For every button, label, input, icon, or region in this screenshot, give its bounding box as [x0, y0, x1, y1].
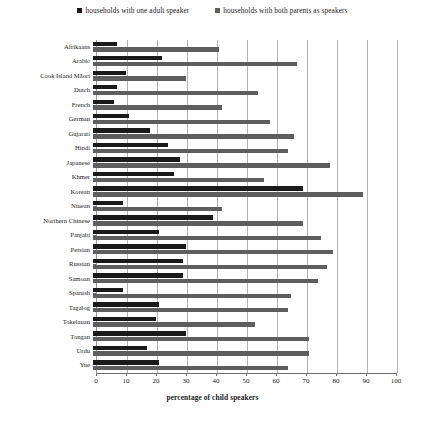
category-label-panjabi: Panjabi	[0, 232, 93, 239]
bar-group	[93, 112, 393, 126]
bar-group	[93, 214, 393, 228]
chart-row: Khmer	[0, 170, 396, 184]
category-label-khmer: Khmer	[0, 174, 93, 181]
bar-group	[93, 54, 393, 68]
legend-label-one-adult-speaker: households with one adult speaker	[85, 6, 189, 15]
bar-both-parents	[93, 192, 363, 196]
chart-row: Dutch	[0, 83, 396, 97]
bar-both-parents	[93, 366, 288, 370]
x-tick-label-100: 100	[391, 377, 402, 385]
bar-both-parents	[93, 105, 222, 109]
x-tick-label-20: 20	[153, 377, 160, 385]
bar-one-adult-speaker	[93, 42, 117, 46]
bar-both-parents	[93, 134, 294, 138]
bar-one-adult-speaker	[93, 186, 303, 190]
x-tick-mark-60	[276, 373, 277, 376]
chart-row: Samoan	[0, 272, 396, 286]
bar-one-adult-speaker	[93, 288, 123, 292]
x-tick-mark-10	[126, 373, 127, 376]
bar-one-adult-speaker	[93, 114, 129, 118]
chart-row: Persian	[0, 243, 396, 257]
x-tick-label-10: 10	[123, 377, 130, 385]
category-label-japanese: Japanese	[0, 160, 93, 167]
bar-group	[93, 330, 393, 344]
bar-one-adult-speaker	[93, 172, 174, 176]
category-label-arabic: Arabic	[0, 58, 93, 65]
x-tick-label-60: 60	[273, 377, 280, 385]
chart-row: Urdu	[0, 344, 396, 358]
legend-swatch-icon-one-adult-speaker	[77, 8, 82, 13]
category-label-gujarati: Gujarati	[0, 131, 93, 138]
bar-one-adult-speaker	[93, 346, 147, 350]
x-tick-label-50: 50	[243, 377, 250, 385]
category-label-urdu: Urdu	[0, 348, 93, 355]
bar-group	[93, 127, 393, 141]
chart-row: Tagalog	[0, 301, 396, 315]
bar-both-parents	[93, 250, 333, 254]
bar-group	[93, 98, 393, 112]
x-tick-label-40: 40	[213, 377, 220, 385]
chart-row: Gujarati	[0, 127, 396, 141]
category-label-northern-chinese: Northern Chinese	[0, 218, 93, 225]
bar-group	[93, 315, 393, 329]
bar-one-adult-speaker	[93, 244, 186, 248]
chart-row: Arabic	[0, 54, 396, 68]
category-label-tongan: Tongan	[0, 334, 93, 341]
bar-both-parents	[93, 62, 297, 66]
category-label-russian: Russian	[0, 261, 93, 268]
bar-one-adult-speaker	[93, 85, 117, 89]
bar-group	[93, 344, 393, 358]
bar-group	[93, 170, 393, 184]
bar-group	[93, 272, 393, 286]
bar-both-parents	[93, 337, 309, 341]
bar-one-adult-speaker	[93, 201, 123, 205]
category-label-spanish: Spanish	[0, 290, 93, 297]
gridline-100	[397, 40, 398, 373]
category-label-hindi: Hindi	[0, 145, 93, 152]
bar-one-adult-speaker	[93, 302, 159, 306]
x-tick-mark-0	[96, 373, 97, 376]
bar-one-adult-speaker	[93, 259, 183, 263]
category-label-samoan: Samoan	[0, 276, 93, 283]
legend-label-both-parents: households with both parents as speakers	[223, 6, 347, 15]
bar-both-parents	[93, 322, 255, 326]
bar-both-parents	[93, 236, 321, 240]
category-label-tokelauan: Tokelauan	[0, 319, 93, 326]
bar-one-adult-speaker	[93, 317, 156, 321]
x-axis-tick-labels: 0102030405060708090100	[96, 377, 396, 389]
chart-row: Afrikaans	[0, 40, 396, 54]
bar-one-adult-speaker	[93, 273, 183, 277]
chart-row: Cook Island Māori	[0, 69, 396, 83]
category-label-korean: Korean	[0, 189, 93, 196]
bar-group	[93, 228, 393, 242]
bar-both-parents	[93, 47, 219, 51]
x-tick-mark-40	[216, 373, 217, 376]
bar-one-adult-speaker	[93, 100, 114, 104]
x-tick-mark-50	[246, 373, 247, 376]
bar-one-adult-speaker	[93, 331, 186, 335]
bar-both-parents	[93, 91, 258, 95]
chart-rows: AfrikaansArabicCook Island MāoriDutchFre…	[0, 40, 396, 373]
bar-group	[93, 286, 393, 300]
bar-one-adult-speaker	[93, 71, 126, 75]
chart-row: Korean	[0, 185, 396, 199]
category-label-dutch: Dutch	[0, 87, 93, 94]
chart-row: German	[0, 112, 396, 126]
chart-row: Yue	[0, 359, 396, 373]
bar-chart: households with one adult speaker househ…	[0, 0, 425, 423]
x-tick-mark-90	[366, 373, 367, 376]
category-label-french: French	[0, 102, 93, 109]
category-label-persian: Persian	[0, 247, 93, 254]
bar-both-parents	[93, 76, 186, 80]
bar-group	[93, 301, 393, 315]
bar-group	[93, 83, 393, 97]
bar-both-parents	[93, 149, 288, 153]
x-tick-label-0: 0	[94, 377, 98, 385]
category-label-cook-island-māori: Cook Island Māori	[0, 73, 93, 80]
chart-row: Niuean	[0, 199, 396, 213]
x-tick-mark-70	[306, 373, 307, 376]
chart-row: French	[0, 98, 396, 112]
legend-item-both-parents: households with both parents as speakers	[215, 6, 347, 15]
bar-group	[93, 359, 393, 373]
bar-one-adult-speaker	[93, 157, 180, 161]
